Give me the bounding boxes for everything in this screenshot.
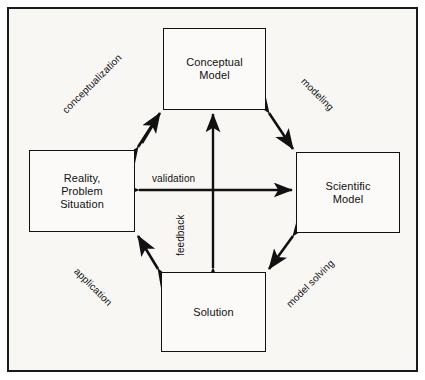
edge-label-feedback: feedback bbox=[175, 215, 186, 256]
node-scientific-model-line1: Scientific bbox=[325, 180, 370, 192]
node-reality-label: Reality, Problem Situation bbox=[60, 172, 104, 211]
node-conceptual-model-label: Conceptual Model bbox=[186, 56, 243, 82]
modelling-cycle-figure: Conceptual Model Reality, Problem Situat… bbox=[0, 0, 425, 380]
node-conceptual-model: Conceptual Model bbox=[163, 28, 266, 110]
node-reality-line1: Reality, bbox=[64, 172, 101, 184]
node-reality-line2: Problem bbox=[61, 185, 103, 197]
node-scientific-model: Scientific Model bbox=[296, 152, 400, 233]
node-scientific-model-label: Scientific Model bbox=[325, 180, 370, 206]
node-reality-problem-situation: Reality, Problem Situation bbox=[29, 150, 135, 232]
node-solution-label: Solution bbox=[193, 306, 234, 319]
node-conceptual-model-line1: Conceptual bbox=[186, 56, 243, 68]
edge-label-validation: validation bbox=[152, 173, 195, 184]
node-scientific-model-line2: Model bbox=[333, 193, 363, 205]
node-solution: Solution bbox=[161, 272, 266, 352]
node-conceptual-model-line2: Model bbox=[199, 69, 229, 81]
node-reality-line3: Situation bbox=[60, 198, 104, 210]
